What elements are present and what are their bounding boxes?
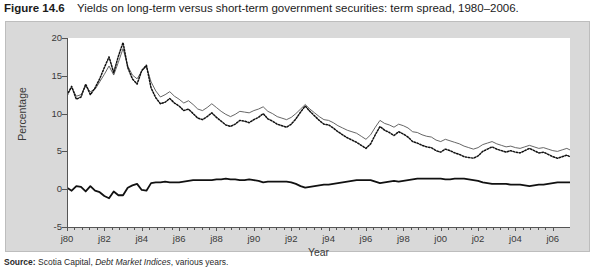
source-note: Source: Scotia Capital, Debt Market Indi…: [4, 257, 564, 267]
x-axis-minor-tick: [284, 227, 285, 230]
x-axis-minor-tick: [127, 227, 128, 230]
x-axis-tick-label: j06: [540, 233, 566, 244]
y-axis-tick-label: 15: [20, 71, 62, 81]
x-axis-minor-tick: [269, 227, 270, 230]
x-axis-minor-tick: [97, 227, 98, 230]
x-axis-minor-tick: [471, 227, 472, 230]
x-axis-minor-tick: [433, 227, 434, 230]
x-axis-minor-tick: [134, 227, 135, 230]
x-axis-tick-label: j82: [91, 233, 117, 244]
x-axis-tick: [366, 227, 367, 231]
x-axis-tick: [216, 227, 217, 231]
x-axis-minor-tick: [314, 227, 315, 230]
x-axis-tick: [291, 227, 292, 231]
x-axis-minor-tick: [486, 227, 487, 230]
x-axis-tick: [478, 227, 479, 231]
source-publication: Debt Market Indices: [95, 257, 171, 267]
chart-panel: LT bond ST bond Spread Percentage: [5, 21, 590, 252]
plot-area: [67, 38, 570, 227]
x-axis-minor-tick: [231, 227, 232, 230]
x-axis-minor-tick: [82, 227, 83, 230]
x-axis-tick: [441, 227, 442, 231]
x-axis-minor-tick: [396, 227, 397, 230]
x-axis-minor-tick: [224, 227, 225, 230]
x-axis-tick-label: j96: [353, 233, 379, 244]
source-publisher: Scotia Capital,: [38, 257, 93, 267]
x-axis-tick-label: j90: [241, 233, 267, 244]
x-axis-minor-tick: [344, 227, 345, 230]
x-axis-minor-tick: [545, 227, 546, 230]
figure-caption-text: Yields on long-term versus short-term go…: [77, 2, 519, 14]
x-axis-tick-label: j94: [316, 233, 342, 244]
chart-series-canvas: [67, 38, 570, 227]
x-axis-minor-tick: [373, 227, 374, 230]
x-axis-tick: [142, 227, 143, 231]
x-axis-minor-tick: [172, 227, 173, 230]
figure-caption: Figure 14.6 Yields on long-term versus s…: [4, 2, 589, 18]
x-axis-minor-tick: [418, 227, 419, 230]
x-axis-tick: [67, 227, 68, 231]
x-axis-minor-tick: [523, 227, 524, 230]
x-axis-tick: [515, 227, 516, 231]
source-label: Source:: [4, 257, 36, 267]
x-axis-minor-tick: [500, 227, 501, 230]
x-axis-minor-tick: [149, 227, 150, 230]
x-axis-minor-tick: [508, 227, 509, 230]
x-axis-tick-label: j02: [465, 233, 491, 244]
x-axis-minor-tick: [112, 227, 113, 230]
x-axis-minor-tick: [448, 227, 449, 230]
x-axis-minor-tick: [336, 227, 337, 230]
x-axis-tick-label: j88: [203, 233, 229, 244]
x-axis-tick: [403, 227, 404, 231]
x-axis-minor-tick: [530, 227, 531, 230]
y-axis-tick-label: 20: [20, 33, 62, 43]
x-axis-minor-tick: [194, 227, 195, 230]
figure-container: Figure 14.6 Yields on long-term versus s…: [0, 0, 595, 272]
y-axis-tick-label: 5: [20, 146, 62, 156]
x-axis-minor-tick: [299, 227, 300, 230]
x-axis-tick-label: j92: [278, 233, 304, 244]
x-axis-minor-tick: [426, 227, 427, 230]
x-axis-tick: [553, 227, 554, 231]
x-axis-minor-tick: [306, 227, 307, 230]
x-axis-minor-tick: [246, 227, 247, 230]
x-axis-minor-tick: [202, 227, 203, 230]
y-axis-line: [67, 38, 68, 227]
x-axis-minor-tick: [261, 227, 262, 230]
x-axis-minor-tick: [388, 227, 389, 230]
x-axis-tick-label: j84: [129, 233, 155, 244]
x-axis-minor-tick: [538, 227, 539, 230]
series-line-spread: [67, 179, 570, 199]
x-axis-tick-label: j86: [166, 233, 192, 244]
x-axis-minor-tick: [493, 227, 494, 230]
x-axis-tick: [254, 227, 255, 231]
x-axis-tick: [104, 227, 105, 231]
x-axis-minor-tick: [411, 227, 412, 230]
x-axis-minor-tick: [239, 227, 240, 230]
x-axis-minor-tick: [456, 227, 457, 230]
x-axis-tick-label: j98: [390, 233, 416, 244]
x-axis-minor-tick: [74, 227, 75, 230]
series-line-lt-bond: [67, 49, 570, 158]
x-axis-minor-tick: [209, 227, 210, 230]
x-axis-minor-tick: [321, 227, 322, 230]
x-axis-minor-tick: [358, 227, 359, 230]
figure-number: Figure 14.6: [4, 2, 65, 14]
series-line-st-bond: [67, 43, 570, 165]
x-axis-minor-tick: [381, 227, 382, 230]
x-axis-minor-tick: [157, 227, 158, 230]
x-axis-tick-label: j80: [54, 233, 80, 244]
x-axis-tick: [179, 227, 180, 231]
x-axis-minor-tick: [351, 227, 352, 230]
x-axis-minor-tick: [119, 227, 120, 230]
x-axis-minor-tick: [89, 227, 90, 230]
x-axis-minor-tick: [463, 227, 464, 230]
x-axis-minor-tick: [187, 227, 188, 230]
y-axis-tick-label: -5: [20, 222, 62, 232]
y-axis-tick-label: 10: [20, 109, 62, 119]
x-axis-tick-label: j00: [428, 233, 454, 244]
x-axis-tick: [329, 227, 330, 231]
x-axis-tick-label: j04: [502, 233, 528, 244]
x-axis-minor-tick: [276, 227, 277, 230]
y-axis-tick-label: 0: [20, 184, 62, 194]
